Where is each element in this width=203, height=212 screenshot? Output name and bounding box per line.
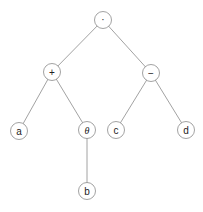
edge-root-plus	[52, 20, 103, 72]
edge-minus-c	[116, 73, 151, 130]
edge-minus-d	[151, 73, 186, 130]
node-label: −	[148, 68, 154, 79]
node-plus: +	[44, 64, 61, 81]
expression-tree-diagram: · + − a θ c d b	[0, 0, 203, 212]
edge-root-minus	[103, 20, 151, 73]
node-label: b	[84, 186, 90, 197]
node-a: a	[11, 123, 28, 140]
node-label: +	[49, 67, 55, 78]
edges	[19, 20, 186, 191]
node-minus: −	[143, 65, 160, 82]
node-root-multiply: ·	[95, 12, 112, 29]
node-label: θ	[85, 125, 90, 136]
node-d: d	[178, 122, 195, 139]
edge-plus-a	[19, 72, 52, 131]
edge-plus-theta	[52, 72, 87, 130]
node-c: c	[108, 122, 125, 139]
node-label: c	[114, 125, 119, 136]
node-b: b	[79, 183, 96, 200]
node-label: d	[183, 125, 189, 136]
node-label: a	[16, 126, 22, 137]
node-theta: θ	[79, 122, 96, 139]
node-label: ·	[101, 14, 104, 25]
